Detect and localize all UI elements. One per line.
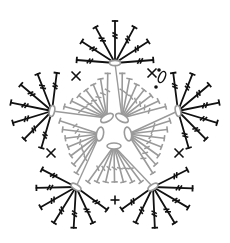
treble-crochet-stitch	[153, 187, 190, 210]
slip-stitch-dot	[154, 85, 158, 89]
treble-crochet-stitch	[76, 187, 96, 224]
treble-crochet-stitch	[178, 111, 218, 126]
join-chain-oval	[157, 70, 168, 83]
chain-oval	[107, 143, 121, 149]
treble-crochet-stitch	[12, 111, 52, 126]
double-crochet-stitch	[71, 134, 100, 167]
double-crochet-stitch	[94, 146, 114, 183]
double-crochet-stitch	[114, 146, 126, 183]
treble-crochet-stitch	[80, 39, 115, 63]
outer-chain-oval	[70, 182, 82, 192]
single-crochet-mark	[148, 69, 157, 78]
chain-oval	[123, 126, 132, 141]
single-crochet-mark	[111, 196, 120, 205]
single-crochet-mark	[72, 72, 81, 81]
treble-crochet-stitch	[153, 187, 177, 225]
slip-stitch-join	[154, 68, 167, 89]
crochet-chart	[0, 0, 230, 243]
double-crochet-stitch	[122, 98, 160, 118]
slip-stitch-dot	[157, 68, 161, 72]
treble-crochet-stitch	[178, 73, 195, 111]
treble-crochet-stitch	[93, 26, 115, 63]
outer-chain-oval	[110, 60, 121, 65]
treble-crochet-stitch	[35, 73, 52, 111]
treble-crochet-stitch	[112, 21, 118, 63]
chain-line	[115, 63, 122, 118]
treble-crochet-stitch	[115, 26, 137, 63]
single-crochet-mark	[47, 149, 56, 158]
treble-crochet-stitch	[51, 187, 76, 224]
single-crochet-marks	[47, 69, 184, 205]
double-crochet-stitch	[103, 146, 114, 183]
treble-crochet-stitch	[133, 187, 153, 224]
treble-crochet-stitch	[115, 39, 150, 63]
chain-oval	[95, 126, 104, 141]
double-crochet-stitch	[128, 134, 158, 167]
single-crochet-mark	[175, 149, 184, 158]
treble-crochet-stitch	[39, 187, 76, 210]
